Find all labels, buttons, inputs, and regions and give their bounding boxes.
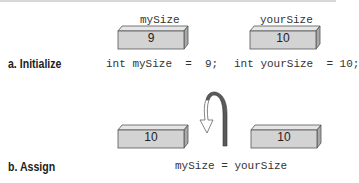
yoursize-box: 10	[248, 25, 322, 50]
code-assign: mySize = yourSize	[175, 160, 287, 172]
yoursize-box-after: 10	[249, 124, 323, 149]
mysize-box-after: 10	[116, 124, 190, 149]
mysize-value: 9	[118, 31, 184, 45]
yoursize-value: 10	[250, 31, 316, 45]
section-label-initialize: a. Initialize	[8, 57, 61, 71]
code-yoursize-init: int yourSize = 10;	[234, 58, 359, 70]
section-label-assign: b. Assign	[8, 160, 55, 174]
yoursize-value-after: 10	[251, 130, 317, 144]
code-mysize-init: int mySize = 9;	[106, 58, 218, 70]
mysize-value-after: 10	[118, 130, 184, 144]
top-rule	[0, 0, 336, 2]
curved-arrow-icon	[196, 90, 236, 148]
mysize-box: 9	[116, 25, 190, 50]
